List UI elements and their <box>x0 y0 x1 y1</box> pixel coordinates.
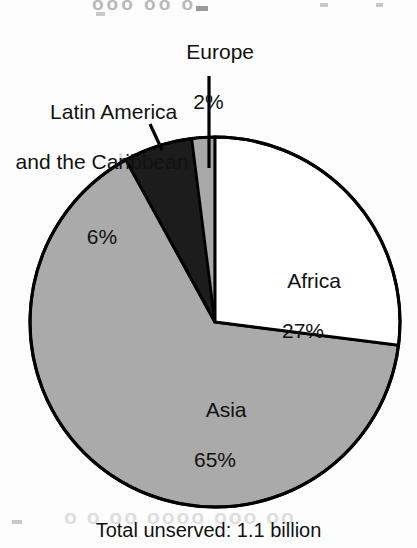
pie-chart <box>0 0 417 548</box>
chart-page: ooo oo o bleed o o oo oooo ooo oo Europe… <box>0 0 417 548</box>
pie-slice-africa[interactable] <box>215 137 400 345</box>
